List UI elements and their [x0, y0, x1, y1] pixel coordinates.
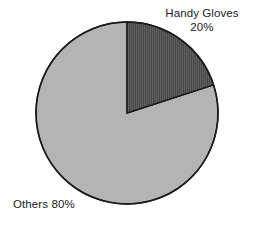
pie-chart: Handy Gloves 20% Others 80% [0, 0, 261, 228]
slice-label-handy-gloves-value: 20% [152, 21, 252, 35]
slice-label-others: Others 80% [13, 198, 75, 212]
slice-label-handy-gloves: Handy Gloves 20% [152, 7, 252, 34]
slice-label-handy-gloves-name: Handy Gloves [165, 7, 238, 19]
pie-chart-graphic [0, 0, 261, 228]
